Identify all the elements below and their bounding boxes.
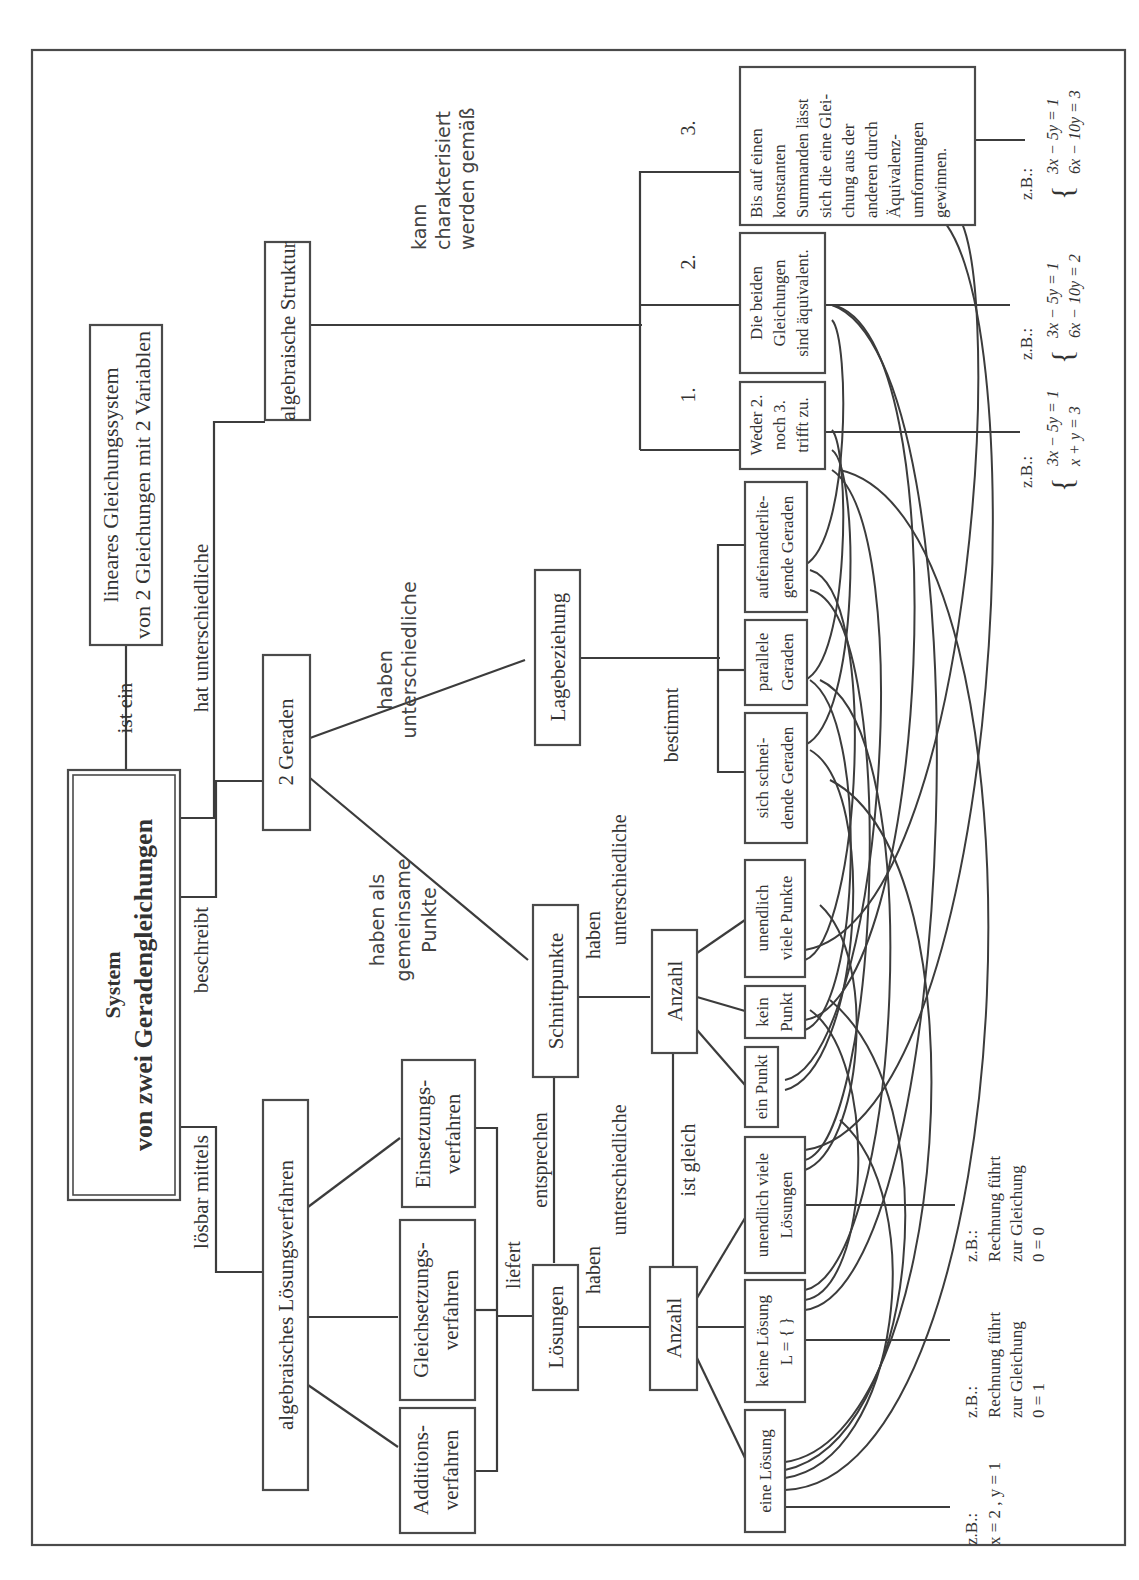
diagram-text: x + y = 3 <box>1066 406 1084 467</box>
label-kann: kann <box>408 204 430 250</box>
label-beschreibt: beschreibt <box>189 907 213 993</box>
diagram-text: zur Gleichung <box>1007 1165 1026 1262</box>
diagram-text: Lösungen <box>777 1171 796 1239</box>
diagram-text: dende Geraden <box>778 726 797 829</box>
example-eine-loesung-zb: z.B.: <box>962 1513 981 1545</box>
diagram-text: Gleichsetzungs- <box>409 1242 433 1377</box>
diagram-text: unendlich viele <box>753 1153 772 1257</box>
node-2-geraden: 2 Geraden <box>263 655 310 830</box>
node-einsetzungsverfahren: Einsetzungs- verfahren <box>402 1060 475 1207</box>
diagram-text: noch 3. <box>770 400 789 450</box>
example-weder-zb: z.B.: <box>1017 456 1036 488</box>
diagram-text: { <box>1045 186 1078 200</box>
diagram-text: unterschiedliche <box>398 581 420 738</box>
label-loesbar-mittels: lösbar mittels <box>189 1135 213 1249</box>
diagram-text: viele Punkte <box>777 876 796 961</box>
diagram-text: Punkte <box>418 887 440 952</box>
label-bestimmt: bestimmt <box>660 687 682 762</box>
diagram-text: charakterisiert <box>432 111 454 250</box>
diagram-text: konstanten <box>770 144 789 218</box>
node-loesungen: Lösungen <box>533 1265 578 1390</box>
diagram-text: 0 = 0 <box>1029 1227 1048 1262</box>
node-ein-punkt: ein Punkt <box>745 1047 778 1127</box>
node-additionsverfahren: Additions- verfahren <box>400 1408 475 1533</box>
diagram-text: zur Gleichung <box>1007 1321 1026 1418</box>
diagram-text: Äquivalenz- <box>885 134 904 218</box>
label-haben-unterschiedliche-lage: haben <box>374 650 396 709</box>
node-lineares-gleichungssystem: lineares Gleichungssystem von 2 Gleichun… <box>90 325 162 645</box>
diagram-text: sich die eine Glei- <box>816 94 835 218</box>
diagram-text: chung aus der <box>839 123 858 218</box>
diagram-text: werden gemäß <box>456 108 478 250</box>
diagram-text: Punkt <box>777 992 796 1032</box>
diagram-text: sind äquivalent. <box>793 249 812 357</box>
diagram-text: verfahren <box>439 1269 463 1350</box>
diagram-text: 3x − 5y = 1 <box>1044 390 1062 467</box>
diagram-text: unendlich <box>753 884 772 952</box>
diagram-text: umformungen <box>908 121 927 218</box>
label-haben-unterschiedliche-punkte: haben <box>582 911 604 959</box>
example-eine-loesung: x = 2 , y = 1 <box>985 1462 1004 1545</box>
label-haben-gemeinsame-punkte: haben als <box>366 874 388 966</box>
diagram-text: Weder 2. <box>747 395 766 456</box>
node-parallele-geraden: parallele Geraden <box>745 620 807 705</box>
diagram-text: Schnittpunkte <box>544 933 568 1050</box>
node-keine-loesung: keine Lösung L = { } <box>745 1280 805 1402</box>
diagram-text: 2 Geraden <box>274 698 298 785</box>
node-weder-noch: Weder 2. noch 3. trifft zu. <box>740 382 825 469</box>
diagram-text: 3x − 5y = 1 <box>1044 262 1062 339</box>
diagram-text: Rechnung führt <box>985 1155 1004 1262</box>
diagram-text: algebraisches Lösungsverfahren <box>274 1160 298 1430</box>
label-haben-unterschiedliche-loesungen: haben <box>582 1246 604 1294</box>
label-num-2: 2. <box>677 255 699 270</box>
node-anzahl-punkte: Anzahl <box>652 930 697 1053</box>
diagram-text: keine Lösung <box>753 1294 772 1387</box>
diagram-text: Lösungen <box>544 1285 568 1368</box>
diagram-text: gende Geraden <box>778 495 797 598</box>
label-liefert: liefert <box>502 1241 524 1289</box>
node-aequivalent: Die beiden Gleichungen sind äquivalent. <box>740 233 825 373</box>
diagram-text: gewinnen. <box>931 148 950 218</box>
diagram-text: L = { } <box>777 1317 796 1365</box>
label-ist-ein: ist ein <box>113 682 137 733</box>
diagram-text: unterschiedliche <box>608 1104 630 1235</box>
diagram-text: verfahren <box>439 1429 463 1510</box>
example-keine-loesung-zb: z.B.: <box>962 1386 981 1418</box>
central-node: System von zwei Geradengleichungen <box>68 770 180 1200</box>
example-konstant-zb: z.B.: <box>1017 168 1036 200</box>
diagram-text: Additions- <box>409 1425 433 1515</box>
node-eine-loesung: eine Lösung <box>745 1410 785 1532</box>
label-num-1: 1. <box>677 388 699 403</box>
node-unendlich-viele-loesungen: unendlich viele Lösungen <box>745 1137 805 1273</box>
diagram-text: parallele <box>753 633 772 692</box>
diagram-text: eine Lösung <box>756 1429 775 1513</box>
diagram-text: sich schnei- <box>753 737 772 818</box>
label-entsprechen: entsprechen <box>529 1112 552 1208</box>
diagram-text: Die beiden <box>747 265 766 340</box>
diagram-text: Bis auf einen <box>747 128 766 218</box>
node-algebraische-struktur: algebraische Struktur <box>265 241 310 420</box>
diagram-text: 6x − 10y = 3 <box>1066 90 1084 174</box>
concept-map: System von zwei Geradengleichungen linea… <box>0 0 1139 1580</box>
diagram-text: { <box>1045 350 1078 364</box>
diagram-text: lineares Gleichungssystem <box>98 367 123 602</box>
examples: z.B.: x = 2 , y = 1 z.B.: Rechnung führt… <box>962 90 1084 1545</box>
diagram-text: trifft zu. <box>793 397 812 452</box>
diagram-text: Gleichungen <box>770 259 789 346</box>
label-ist-gleich: ist gleich <box>677 1124 700 1197</box>
diagram-text: ein Punkt <box>752 1054 771 1119</box>
example-aequivalent-zb: z.B.: <box>1017 328 1036 360</box>
diagram-text: Geraden <box>778 633 797 691</box>
central-node-title-line1: System <box>100 951 125 1018</box>
diagram-text: Anzahl <box>662 1298 686 1359</box>
diagram-text: verfahren <box>441 1093 465 1174</box>
diagram-text: gemeinsame <box>392 858 414 981</box>
label-hat-unterschiedliche: hat unterschiedliche <box>189 544 213 713</box>
node-schneidende-geraden: sich schnei- dende Geraden <box>745 713 807 843</box>
diagram-text: Lagebeziehung <box>546 592 570 721</box>
node-konstanter-summand: Bis auf einen konstanten Summanden lässt… <box>740 67 975 225</box>
diagram-text: Rechnung führt <box>985 1311 1004 1418</box>
node-gleichsetzungsverfahren: Gleichsetzungs- verfahren <box>400 1220 475 1400</box>
node-kein-punkt: kein Punkt <box>745 986 805 1038</box>
diagram-text: 6x − 10y = 2 <box>1066 254 1084 338</box>
